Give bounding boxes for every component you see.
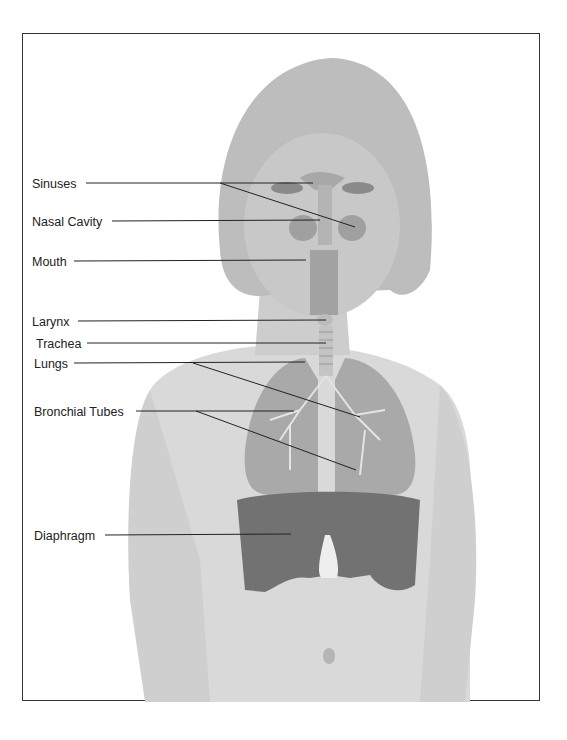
maxillary-sinus-left <box>289 215 317 241</box>
label-mouth: Mouth <box>32 255 67 269</box>
label-bronchial-tubes: Bronchial Tubes <box>34 405 124 419</box>
maxillary-sinus-right <box>338 215 366 241</box>
label-larynx: Larynx <box>32 315 70 329</box>
right-eye <box>342 182 374 194</box>
left-eye <box>271 182 303 194</box>
nasal-cavity <box>318 185 332 245</box>
label-nasal-cavity: Nasal Cavity <box>32 215 102 229</box>
label-diaphragm: Diaphragm <box>34 529 95 543</box>
respiratory-illustration <box>0 0 567 740</box>
throat <box>310 250 338 315</box>
label-sinuses: Sinuses <box>32 177 76 191</box>
label-trachea: Trachea <box>36 337 81 351</box>
label-lungs: Lungs <box>34 357 68 371</box>
navel <box>323 648 335 664</box>
trachea <box>319 326 333 376</box>
